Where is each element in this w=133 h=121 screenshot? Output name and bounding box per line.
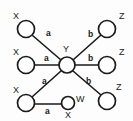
- node-label-w-bottom-sub: X: [65, 110, 71, 120]
- edge-label-x-bottom-w: a: [45, 106, 50, 116]
- node-z-top[interactable]: [99, 21, 116, 38]
- node-layer: [18, 21, 116, 112]
- edge-y-z-top: [73, 35, 101, 60]
- node-w-bottom[interactable]: [62, 97, 75, 110]
- node-x-top[interactable]: [18, 21, 35, 38]
- node-label-z-middle: Z: [119, 47, 125, 57]
- graph-diagram: X X X Y W X Z Z Z a a a b b b a: [0, 0, 133, 121]
- node-label-w-bottom: W: [76, 94, 85, 104]
- node-label-y-center: Y: [63, 44, 69, 54]
- edge-label-x-bottom-y: a: [42, 76, 47, 86]
- node-label-z-top: Z: [119, 11, 125, 21]
- node-x-bottom[interactable]: [18, 95, 35, 112]
- node-label-x-top: X: [13, 11, 19, 21]
- edge-label-x-middle-y: a: [44, 53, 49, 63]
- node-label-x-middle: X: [13, 47, 19, 57]
- node-label-x-bottom: X: [13, 85, 19, 95]
- edge-label-x-top-y: a: [46, 28, 51, 38]
- graph-canvas: X X X Y W X Z Z Z a a a b b b a: [0, 0, 133, 121]
- node-label-z-bottom: Z: [116, 82, 122, 92]
- node-y-center[interactable]: [59, 57, 75, 73]
- edge-label-y-z-top: b: [88, 29, 93, 39]
- edge-label-y-z-bottom: b: [86, 76, 91, 86]
- edge-label-y-z-middle: b: [88, 53, 93, 63]
- node-z-middle[interactable]: [99, 57, 116, 74]
- node-z-bottom[interactable]: [99, 93, 116, 110]
- node-x-middle[interactable]: [18, 57, 35, 74]
